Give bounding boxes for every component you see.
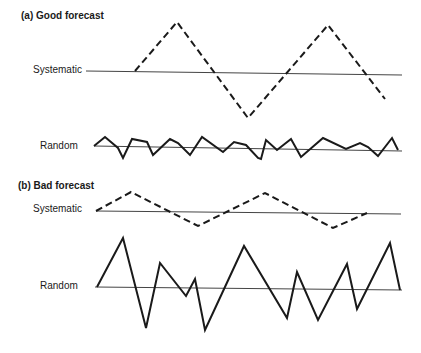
baseline-random-bad: [95, 287, 402, 290]
baseline-systematic-good: [86, 71, 402, 75]
random-error-line-bad: [97, 238, 400, 330]
systematic-error-line-good: [135, 22, 385, 118]
forecast-error-diagram: [0, 0, 421, 353]
systematic-error-line-bad: [96, 192, 367, 228]
baseline-systematic-bad: [96, 211, 401, 214]
